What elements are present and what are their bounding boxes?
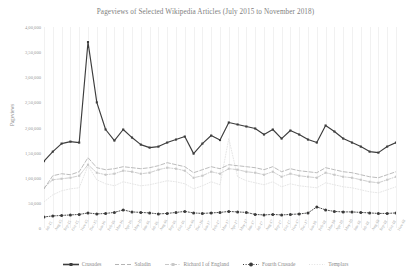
data-point [281,176,283,178]
y-axis-tick: 50,000 [28,200,41,205]
data-point [104,212,107,215]
data-point [219,139,221,141]
data-point [61,143,63,145]
data-point [254,127,256,129]
data-point [351,142,353,144]
data-point [166,167,168,169]
data-point [210,171,212,173]
y-axis-tick: 4,00,000 [25,25,41,30]
data-point [359,211,362,214]
data-point [298,212,301,215]
chart-title: Pageviews of Selected Wikipedia Articles… [0,8,411,16]
data-point [316,142,318,144]
data-point [289,173,291,175]
y-axis: 4,00,0003,50,0003,00,0002,50,0002,00,000… [0,27,44,228]
data-point [175,168,177,170]
data-point [263,174,265,176]
data-point [280,213,283,216]
data-point [78,213,81,216]
data-point [245,211,248,214]
data-point [210,211,213,214]
legend-marker [115,261,131,268]
data-point [325,172,327,174]
data-point [289,213,292,216]
data-point [96,172,98,174]
data-point [51,214,54,217]
data-point [131,171,133,173]
data-point [113,173,115,175]
data-point [219,211,222,214]
data-point [210,134,212,136]
pageviews-line-chart: Pageviews of Selected Wikipedia Articles… [0,0,411,277]
data-point [87,211,90,214]
legend-label: Templars [328,261,348,267]
legend-item-fourth-crusade[interactable]: Fourth Crusade [243,261,295,268]
data-point [227,210,230,213]
data-point [272,171,274,173]
data-point [157,146,159,148]
data-point [368,211,371,214]
data-point [263,133,265,135]
data-point [166,212,169,215]
data-point [315,205,318,208]
data-point [193,177,195,179]
data-point [149,172,151,174]
legend-item-saladin[interactable]: Saladin [115,261,150,268]
x-axis: Jul-15Aug-15Sep-15Oct-15Nov-15Dec-15Jan-… [44,229,396,255]
data-point [78,142,80,144]
data-point [157,169,159,171]
data-point [44,160,45,162]
legend-marker [63,261,79,268]
legend-label: Fourth Crusade [262,261,295,267]
data-point [281,138,283,140]
data-point [395,142,396,144]
legend-label: Crusades [82,261,102,267]
y-axis-tick: 1,00,000 [25,175,41,180]
legend-label: Richard I of England [184,261,229,267]
plot-area [44,27,396,228]
data-point [201,143,203,145]
data-point [369,181,371,183]
data-point [157,212,160,215]
y-axis-tick: 2,50,000 [25,100,41,105]
series-crusades [44,41,396,162]
data-point [298,133,300,135]
data-point [333,130,335,132]
data-point [131,137,133,139]
legend-item-richard-i-of-england[interactable]: Richard I of England [165,261,229,268]
legend-marker [243,261,259,268]
data-point [122,208,125,211]
data-point [149,147,151,149]
y-axis-tick: 1,50,000 [25,150,41,155]
data-point [122,128,124,130]
data-point [87,164,89,166]
gridline [396,27,397,228]
legend-item-templars[interactable]: Templars [309,261,348,268]
data-point [377,182,379,184]
data-point [369,151,371,153]
data-point [237,169,239,171]
data-point [69,213,72,216]
data-point [245,171,247,173]
data-point [351,177,353,179]
data-point [237,123,239,125]
y-axis-tick: 3,50,000 [25,50,41,55]
data-point [69,177,71,179]
data-point [324,208,327,211]
y-axis-title: Pageviews [9,85,15,145]
data-point [342,138,344,140]
data-point [175,211,178,214]
data-point [333,210,336,213]
data-point [254,172,256,174]
data-point [307,139,309,141]
y-axis-tick: 3,00,000 [25,75,41,80]
data-point [122,170,124,172]
data-point [271,213,274,216]
data-point [360,146,362,148]
data-point [52,179,54,181]
data-point [263,213,266,216]
legend-item-crusades[interactable]: Crusades [63,261,102,268]
data-point [395,211,397,214]
data-point [95,212,98,215]
data-point [219,173,221,175]
